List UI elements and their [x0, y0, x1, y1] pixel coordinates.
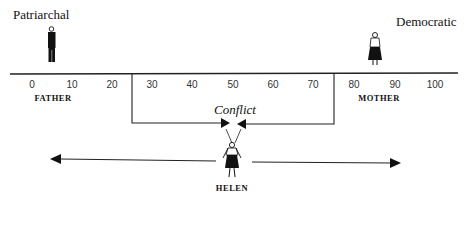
father-label: FATHER — [34, 93, 71, 103]
mother-figure-icon — [368, 33, 382, 66]
arrow-right-icon — [390, 158, 401, 168]
father-figure-icon — [48, 27, 56, 62]
arrow-head-right-icon — [221, 118, 230, 128]
tick-10: 10 — [66, 79, 77, 90]
mother-label: MOTHER — [358, 93, 400, 103]
conflict-label: Conflict — [214, 102, 256, 118]
tick-70: 70 — [307, 79, 318, 90]
helen-label: HELEN — [216, 183, 248, 193]
tick-80: 80 — [348, 79, 359, 90]
tick-40: 40 — [186, 79, 197, 90]
tick-50: 50 — [227, 79, 238, 90]
tick-100: 100 — [427, 79, 444, 90]
helen-figure-icon — [223, 142, 241, 177]
arrow-left-icon — [50, 154, 61, 164]
tick-20: 20 — [106, 79, 117, 90]
tick-90: 90 — [389, 79, 400, 90]
tick-60: 60 — [267, 79, 278, 90]
tick-0: 0 — [29, 79, 35, 90]
tick-30: 30 — [146, 79, 157, 90]
scale-axis — [10, 73, 458, 74]
arrow-head-left-icon — [237, 119, 246, 129]
